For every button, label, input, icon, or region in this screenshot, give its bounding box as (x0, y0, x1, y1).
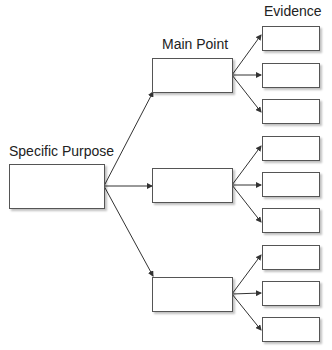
evidence-box-1-3 (262, 99, 320, 124)
evidence-box-3-3 (262, 317, 320, 342)
specific-purpose-heading: Specific Purpose (9, 143, 114, 159)
evidence-box-2-1 (262, 136, 320, 161)
evidence-box-3-1 (262, 245, 320, 270)
evidence-box-1-1 (262, 26, 320, 51)
evidence-heading: Evidence (264, 3, 322, 19)
evidence-box-1-2 (262, 63, 320, 88)
main-point-box-2 (152, 168, 233, 203)
specific-purpose-box (9, 164, 105, 209)
main-point-heading: Main Point (162, 36, 228, 52)
evidence-box-2-3 (262, 208, 320, 233)
evidence-box-2-2 (262, 172, 320, 197)
evidence-box-3-2 (262, 281, 320, 306)
main-point-box-1 (152, 58, 233, 93)
main-point-box-3 (152, 277, 233, 312)
